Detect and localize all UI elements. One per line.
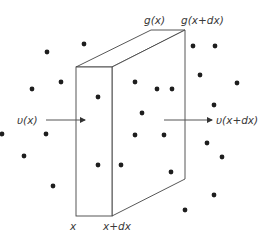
particle-dot xyxy=(183,208,188,213)
label-g-x-plus-dx: g(x+dx) xyxy=(181,14,224,26)
particle-dot xyxy=(140,111,145,116)
particle-dot xyxy=(205,141,210,146)
particle-dot xyxy=(212,103,217,108)
slab-front-face xyxy=(76,67,112,216)
slab-box xyxy=(76,30,185,216)
particle-dot xyxy=(169,170,174,175)
particle-dot xyxy=(213,44,218,49)
particle-dot xyxy=(162,133,167,138)
particle-dot xyxy=(44,132,49,137)
particle-dot xyxy=(235,81,240,86)
particle-dot xyxy=(220,155,225,160)
particle-dot xyxy=(96,95,101,100)
particle-dot xyxy=(30,87,35,92)
particle-dot xyxy=(51,184,56,189)
particle-dot xyxy=(155,87,160,92)
particle-dot xyxy=(45,50,50,55)
particle-dot xyxy=(0,132,4,137)
particle-dot xyxy=(59,80,64,85)
label-x-plus-dx: x+dx xyxy=(102,220,132,232)
particle-dot xyxy=(170,87,175,92)
particle-dot xyxy=(133,133,138,138)
particle-dot xyxy=(212,193,217,198)
label-x: x xyxy=(69,220,77,232)
particle-dot xyxy=(22,154,27,159)
particle-dot xyxy=(82,42,87,47)
particle-dot xyxy=(119,163,124,168)
label-outflow-velocity: υ(x+dx) xyxy=(216,114,258,126)
label-inflow-velocity: υ(x) xyxy=(17,114,37,126)
particle-dot xyxy=(96,163,101,168)
particle-dot xyxy=(191,44,196,49)
particle-dot xyxy=(133,80,138,85)
slab-flux-diagram: g(x) g(x+dx) υ(x) υ(x+dx) x x+dx xyxy=(0,0,267,243)
particle-dot xyxy=(198,73,203,78)
label-g-x: g(x) xyxy=(144,14,165,26)
